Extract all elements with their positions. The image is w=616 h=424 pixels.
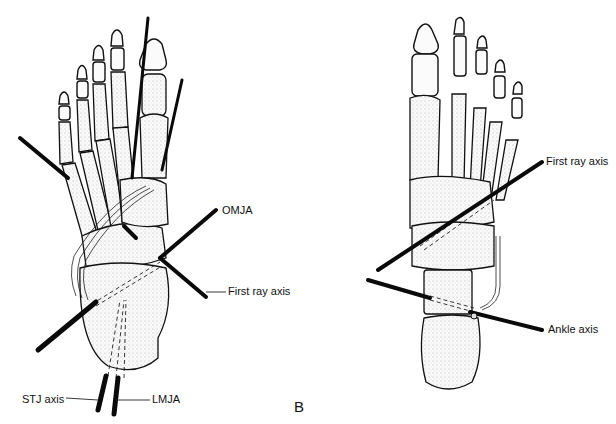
- right-foot-hallux: [410, 24, 440, 180]
- omja-rod: [160, 210, 216, 258]
- right-foot-drawing: [368, 17, 542, 389]
- label-left-first-ray-axis: First ray axis: [228, 286, 290, 297]
- right-foot-lesser-toes: [452, 17, 522, 200]
- label-ankle-axis: Ankle axis: [548, 324, 598, 335]
- right-foot-tarsals: [410, 176, 494, 389]
- stj-axis-rod: [98, 376, 106, 410]
- left-foot-drawing: [20, 18, 226, 414]
- label-omja: OMJA: [222, 205, 253, 216]
- lmja-rod: [114, 378, 118, 414]
- ankle-axis-rod-right: [470, 312, 542, 330]
- label-right-first-ray-axis: First ray axis: [546, 156, 608, 167]
- ankle-axis-rod-left: [368, 280, 430, 298]
- label-lmja: LMJA: [152, 394, 180, 405]
- panel-label: B: [294, 398, 304, 415]
- label-stj-axis: STJ axis: [22, 394, 64, 405]
- foot-axes-figure: OMJA First ray axis STJ axis LMJA First …: [0, 0, 616, 424]
